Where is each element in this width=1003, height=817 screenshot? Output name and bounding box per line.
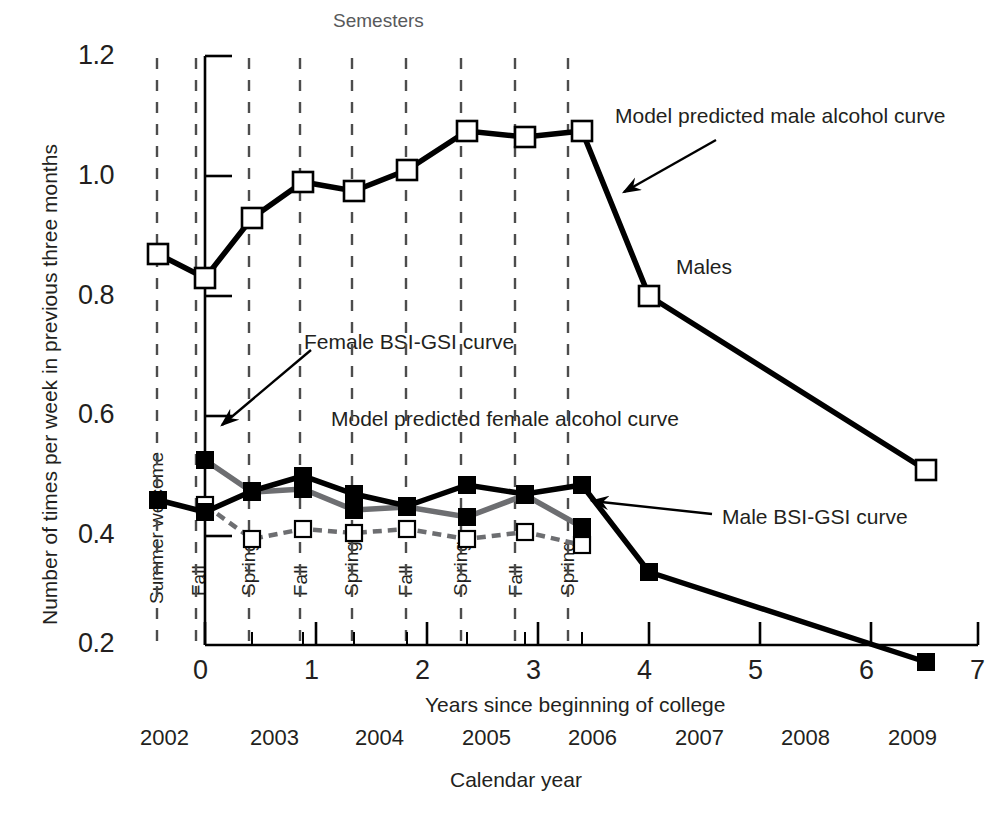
arrow-male-bsi-gsi-icon <box>592 501 712 514</box>
x-axis-minor-ticks <box>252 632 582 645</box>
arrow-female-bsi-gsi-icon <box>222 350 311 425</box>
y-axis <box>205 56 232 645</box>
chart-figure: Semesters 1.2 1.0 0.8 0.6 0.4 0.2 Number… <box>0 0 1003 817</box>
arrow-male-alcohol-icon <box>624 140 716 192</box>
series-model-predicted-male-alcohol-curve <box>148 121 936 480</box>
semester-separators <box>157 58 568 645</box>
annotation-arrows <box>222 140 716 514</box>
series-model-predicted-female-alcohol-curve <box>149 467 935 671</box>
plot-area <box>0 0 1003 817</box>
